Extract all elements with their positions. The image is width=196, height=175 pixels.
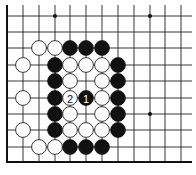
black-stone[interactable] (48, 123, 63, 138)
white-stone-icon (95, 58, 110, 73)
black-stone[interactable] (63, 140, 78, 155)
white-stone-icon (95, 123, 110, 138)
black-stone-icon (111, 74, 126, 89)
white-stone[interactable] (63, 58, 78, 73)
white-stone[interactable] (16, 123, 31, 138)
black-stone[interactable] (95, 41, 110, 56)
white-stone[interactable] (95, 107, 110, 122)
white-stone[interactable] (95, 123, 110, 138)
white-stone-icon (95, 91, 110, 106)
black-stone[interactable] (48, 107, 63, 122)
black-stone-icon (63, 140, 78, 155)
white-stone[interactable] (79, 58, 94, 73)
black-stone[interactable] (48, 74, 63, 89)
white-stone[interactable] (63, 107, 78, 122)
black-stone-icon (111, 58, 126, 73)
black-stone[interactable] (111, 58, 126, 73)
black-stone[interactable] (79, 41, 94, 56)
go-board[interactable]: 21 (0, 0, 196, 175)
black-stone-icon (48, 58, 63, 73)
black-stone[interactable] (48, 91, 63, 106)
black-stone[interactable] (63, 41, 78, 56)
white-stone-icon (79, 123, 94, 138)
black-stone[interactable] (48, 58, 63, 73)
move-number-label: 2 (67, 93, 73, 105)
stones-layer[interactable]: 21 (16, 41, 126, 155)
black-stone[interactable] (111, 74, 126, 89)
white-stone-icon (63, 107, 78, 122)
star-point-icon (148, 14, 152, 18)
black-stone-icon (111, 107, 126, 122)
white-stone[interactable] (95, 58, 110, 73)
white-stone-icon (16, 58, 31, 73)
white-stone-icon (79, 58, 94, 73)
black-stone[interactable] (79, 140, 94, 155)
white-stone[interactable] (48, 41, 63, 56)
black-stone[interactable]: 1 (79, 91, 94, 106)
black-stone-icon (48, 74, 63, 89)
white-stone-icon (95, 74, 110, 89)
white-stone[interactable] (32, 41, 47, 56)
white-stone[interactable] (48, 140, 63, 155)
white-stone-icon (63, 123, 78, 138)
white-stone[interactable] (63, 74, 78, 89)
black-stone-icon (79, 41, 94, 56)
black-stone-icon (48, 123, 63, 138)
black-stone-icon (48, 91, 63, 106)
black-stone[interactable] (95, 140, 110, 155)
white-stone-icon (48, 41, 63, 56)
white-stone-icon (32, 140, 47, 155)
move-number-label: 1 (83, 93, 89, 105)
black-stone-icon (63, 41, 78, 56)
black-stone-icon (111, 91, 126, 106)
white-stone-icon (16, 123, 31, 138)
star-point-icon (148, 112, 152, 116)
white-stone[interactable] (63, 123, 78, 138)
white-stone-icon (16, 91, 31, 106)
black-stone-icon (111, 123, 126, 138)
white-stone-icon (95, 107, 110, 122)
black-stone[interactable] (111, 123, 126, 138)
black-stone-icon (95, 41, 110, 56)
white-stone[interactable] (95, 91, 110, 106)
star-point-icon (53, 14, 57, 18)
white-stone-icon (63, 74, 78, 89)
white-stone-icon (32, 41, 47, 56)
white-stone-icon (63, 58, 78, 73)
white-stone[interactable] (16, 58, 31, 73)
white-stone-icon (48, 140, 63, 155)
white-stone[interactable] (79, 123, 94, 138)
white-stone[interactable]: 2 (63, 91, 78, 106)
black-stone-icon (48, 107, 63, 122)
white-stone[interactable] (16, 91, 31, 106)
black-stone[interactable] (111, 91, 126, 106)
white-stone[interactable] (95, 74, 110, 89)
black-stone-icon (95, 140, 110, 155)
black-stone-icon (79, 140, 94, 155)
black-stone[interactable] (111, 107, 126, 122)
white-stone[interactable] (32, 140, 47, 155)
